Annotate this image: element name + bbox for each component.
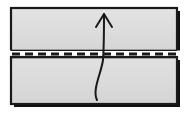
origami-fold-diagram: Origami valley fold step diagram Rectang… bbox=[0, 0, 192, 113]
upper-paper-panel bbox=[11, 8, 177, 51]
diagram-canvas bbox=[0, 0, 192, 113]
lower-paper-panel bbox=[11, 57, 177, 104]
